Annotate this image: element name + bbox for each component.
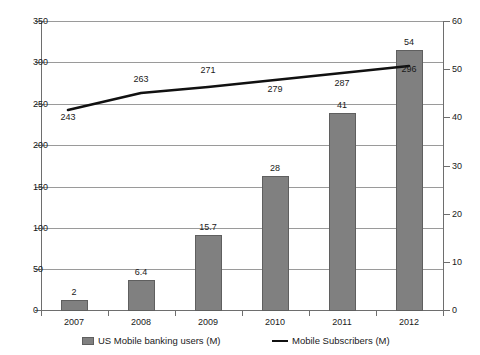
line-series-mobile-subscribers xyxy=(0,0,480,355)
line-value: 279 xyxy=(267,84,282,94)
category-value: 2007 xyxy=(64,317,84,327)
category-value: 2009 xyxy=(198,317,218,327)
category-label-2012: 2012 xyxy=(379,317,439,327)
line-value: 296 xyxy=(401,64,416,74)
category-label-2010: 2010 xyxy=(245,317,305,327)
category-value: 2008 xyxy=(131,317,151,327)
category-label-2008: 2008 xyxy=(111,317,171,327)
bar-swatch-icon xyxy=(82,337,94,345)
line-value-label-2012: 296 xyxy=(384,65,434,74)
line-value: 271 xyxy=(200,65,215,75)
chart-legend: US Mobile banking users (M) Mobile Subsc… xyxy=(0,334,480,350)
category-value: 2012 xyxy=(399,317,419,327)
line-value-label-2010: 279 xyxy=(250,85,300,94)
legend-item-bar-series[interactable]: US Mobile banking users (M) xyxy=(82,336,221,346)
category-value: 2011 xyxy=(332,317,351,327)
line-value-label-2008: 263 xyxy=(116,75,166,84)
legend-label: US Mobile banking users (M) xyxy=(98,336,221,346)
line-value-label-2007: 243 xyxy=(43,113,93,122)
line-value-label-2009: 271 xyxy=(183,66,233,75)
line-value: 243 xyxy=(60,112,75,122)
line-value-label-2011: 287 xyxy=(317,79,367,88)
category-label-2009: 2009 xyxy=(178,317,238,327)
category-label-2011: 2011 xyxy=(312,317,372,327)
line-value: 287 xyxy=(334,78,349,88)
legend-label: Mobile Subscribers (M) xyxy=(292,336,390,346)
line-swatch-icon xyxy=(272,340,288,342)
category-label-2007: 2007 xyxy=(44,317,104,327)
legend-item-line-series[interactable]: Mobile Subscribers (M) xyxy=(272,336,390,346)
category-value: 2010 xyxy=(265,317,285,327)
chart-container: 350 300 250 200 150 100 50 0 60 50 40 30… xyxy=(0,0,480,355)
line-value: 263 xyxy=(133,74,148,84)
line-path xyxy=(68,66,409,110)
